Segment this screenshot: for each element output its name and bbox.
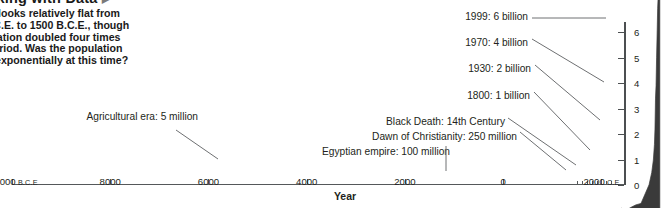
y-axis-tick-label: 3 — [634, 103, 639, 114]
x-tick-era: C.E — [605, 178, 620, 187]
x-tick-value: 6000 — [198, 176, 219, 187]
y-axis-tick-label: 1 — [634, 154, 639, 165]
y-axis-line — [624, 22, 626, 185]
y-axis-tick — [618, 83, 624, 84]
y-axis-tick-label: 5 — [634, 52, 639, 63]
y-axis-tick — [618, 109, 624, 110]
x-axis-tick-label: 2000 — [394, 176, 415, 187]
x-axis-title: Year — [334, 190, 356, 202]
play-triangle-icon: ▶ — [102, 0, 111, 6]
y-axis-tick — [618, 160, 624, 161]
x-tick-value: 8000 — [100, 176, 121, 187]
chart-annotation-label: 1800: 1 billion — [467, 90, 530, 101]
x-tick-value: 4000 — [296, 176, 317, 187]
chart-annotation-label: Egyptian empire: 100 million — [322, 146, 450, 157]
x-tick-value: 2000 — [583, 176, 604, 187]
chart-annotation-label: Agricultural era: 5 million — [86, 111, 198, 122]
y-axis-tick — [618, 134, 624, 135]
callout-title: Working with Data▶ — [0, 0, 226, 6]
chart-annotation-label: 1999: 6 billion — [465, 11, 528, 22]
x-tick-value: 2000 — [394, 176, 415, 187]
x-tick-value: 0 — [501, 176, 506, 187]
x-tick-value: 10,000 — [0, 176, 16, 187]
y-axis-tick-label: 2 — [634, 129, 639, 140]
x-axis-tick-label: 6000 — [198, 176, 219, 187]
x-axis-tick-label: 8000 — [100, 176, 121, 187]
y-axis-tick-label: 0 — [634, 180, 639, 191]
x-axis-tick-label: 2000 C.E — [583, 176, 619, 187]
y-axis-tick-label: 6 — [634, 27, 639, 38]
x-axis-tick-label: 4000 — [296, 176, 317, 187]
y-axis-tick-label: 4 — [634, 78, 639, 89]
population-growth-figure: Working with Data▶ e line looks relative… — [0, 0, 672, 208]
x-tick-era: B.C.E — [16, 178, 38, 187]
chart-annotation-label: 1930: 2 billion — [468, 63, 531, 74]
chart-annotation-label: Black Death: 14th Century — [386, 116, 505, 127]
chart-annotation-label: 1970: 4 billion — [465, 37, 528, 48]
callout-title-text: Working with Data — [0, 0, 98, 6]
chart-annotation-label: Dawn of Christianity: 250 million — [372, 131, 517, 142]
chart-plot-area — [12, 14, 626, 185]
x-axis-minor-tick — [577, 181, 578, 185]
y-axis-tick — [618, 58, 624, 59]
x-axis-tick-label: 10,000 B.C.E — [0, 176, 38, 187]
x-axis-tick-label: 0 — [501, 176, 506, 187]
y-axis-tick — [618, 32, 624, 33]
